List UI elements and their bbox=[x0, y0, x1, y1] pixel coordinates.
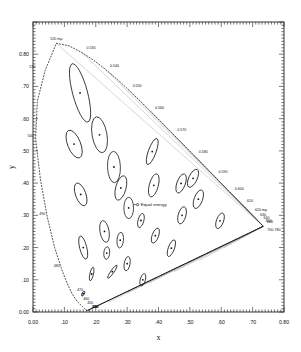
ellipse-center-point bbox=[113, 166, 115, 168]
y-axis-title: y bbox=[7, 165, 16, 169]
ellipse-center-point bbox=[197, 198, 199, 200]
x-axis-tick-label: .20 bbox=[92, 319, 99, 325]
wavelength-label: 480 bbox=[54, 264, 60, 268]
x-axis-tick-label: .40 bbox=[155, 319, 162, 325]
ellipse-center-point bbox=[119, 239, 121, 241]
y-axis-tick-label: .20 bbox=[22, 245, 29, 251]
x-axis-tick-label: .60 bbox=[218, 319, 225, 325]
wavelength-label: 460 bbox=[83, 297, 89, 301]
wavelength-label: 0.580 bbox=[199, 150, 208, 154]
wavelength-label: 0.540 bbox=[110, 64, 119, 68]
ellipse-center-point bbox=[170, 247, 172, 249]
ellipse-center-point bbox=[154, 235, 156, 237]
wavelength-label: 660 bbox=[267, 220, 273, 224]
ellipse-center-point bbox=[80, 193, 82, 195]
ellipse-center-point bbox=[91, 273, 93, 275]
ellipse-center-point bbox=[126, 263, 128, 265]
equal-energy-label: Equal energy bbox=[141, 202, 168, 207]
wavelength-label: 700-780 bbox=[267, 228, 280, 232]
wavelength-label: 520 mμ bbox=[50, 37, 62, 41]
wavelength-label: 470 bbox=[77, 288, 83, 292]
y-axis-tick-label: .50 bbox=[22, 148, 29, 154]
wavelength-label: 0.530 bbox=[87, 46, 96, 50]
wavelength-label: 510 bbox=[29, 65, 35, 69]
x-axis-tick-label: .30 bbox=[124, 319, 131, 325]
ellipse-center-point bbox=[181, 214, 183, 216]
ellipse-center-point bbox=[106, 252, 108, 254]
x-axis-tick-label: .10 bbox=[61, 319, 68, 325]
wavelength-label: 0.590 bbox=[218, 170, 227, 174]
ellipse-center-point bbox=[82, 247, 84, 249]
ellipse-center-point bbox=[128, 207, 130, 209]
wavelength-label: 490 bbox=[39, 212, 45, 216]
wavelength-label: 450 bbox=[87, 301, 93, 305]
wavelength-label: 0.550 bbox=[133, 84, 142, 88]
cie-chromaticity-plot: 0.00.10.20.30.40.50.60.700.800.00.10.20.… bbox=[0, 0, 301, 352]
x-axis-tick-label: .50 bbox=[186, 319, 193, 325]
ellipse-center-point bbox=[180, 183, 182, 185]
x-axis-tick-label: .70 bbox=[249, 319, 256, 325]
chromaticity-diagram-figure: 0.00.10.20.30.40.50.60.700.800.00.10.20.… bbox=[0, 0, 301, 352]
figure-background bbox=[0, 0, 301, 352]
ellipse-center-point bbox=[82, 293, 84, 295]
wavelength-label: 0.570 bbox=[177, 128, 186, 132]
ellipse-center-point bbox=[153, 184, 155, 186]
ellipse-center-point bbox=[151, 151, 153, 153]
wavelength-label: 620 mμ bbox=[255, 208, 267, 212]
wavelength-label: 0.560 bbox=[155, 106, 164, 110]
wavelength-label: 420 bbox=[92, 305, 98, 309]
ellipse-center-point bbox=[99, 134, 101, 136]
ellipse-center-point bbox=[79, 92, 81, 94]
y-axis-tick-label: .10 bbox=[22, 277, 29, 283]
y-axis-tick-label: .30 bbox=[22, 212, 29, 218]
y-axis-tick-label: 0.80 bbox=[19, 51, 29, 57]
ellipse-center-point bbox=[120, 187, 122, 189]
y-axis-tick-label: 0.00 bbox=[19, 309, 29, 315]
ellipse-center-point bbox=[73, 143, 75, 145]
ellipse-center-point bbox=[192, 177, 194, 179]
ellipse-center-point bbox=[219, 220, 221, 222]
ellipse-center-point bbox=[111, 271, 113, 273]
y-axis-tick-label: .40 bbox=[22, 180, 29, 186]
ellipse-center-point bbox=[140, 220, 142, 222]
ellipse-center-point bbox=[104, 231, 106, 233]
x-axis-tick-label: 0.80 bbox=[279, 319, 289, 325]
wavelength-label: 610 bbox=[247, 199, 253, 203]
ellipse-center-point bbox=[142, 279, 144, 281]
wavelength-label: 500 bbox=[28, 134, 34, 138]
x-axis-title: x bbox=[157, 333, 161, 342]
y-axis-tick-label: .60 bbox=[22, 116, 29, 122]
x-axis-tick-label: 0.00 bbox=[28, 319, 38, 325]
y-axis-tick-label: .70 bbox=[22, 83, 29, 89]
wavelength-label: 0.600 bbox=[235, 187, 244, 191]
